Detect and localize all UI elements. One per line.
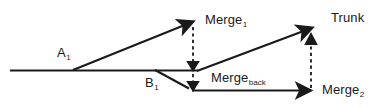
mergeback-to-trunk-edge	[197, 31, 305, 72]
node-label-trunk-base: Trunk	[331, 10, 364, 25]
node-label-merge-back-base: Merge	[211, 70, 248, 85]
node-label-merge2-base: Merge	[322, 82, 359, 97]
branch-a1-edge	[73, 25, 186, 71]
node-label-merge2-subscript: 2	[360, 90, 364, 99]
node-label-merge1-base: Merge	[205, 12, 242, 27]
node-label-merge-back-subscript: back	[249, 78, 266, 87]
node-label-b1-base: B	[145, 75, 154, 90]
branch-b1-edge	[155, 70, 189, 89]
node-label-merge2: Merge2	[322, 83, 364, 96]
diagram-graphics	[0, 0, 371, 108]
node-label-b1-subscript: 1	[154, 83, 158, 92]
node-label-merge1-subscript: 1	[243, 20, 247, 29]
node-label-a1-subscript: 1	[66, 53, 70, 62]
node-label-a1: A1	[57, 46, 70, 59]
node-label-merge-back: Mergeback	[211, 71, 265, 84]
node-label-trunk: Trunk	[331, 11, 364, 24]
diagram-canvas: A1 B1 Merge1 Trunk Mergeback Merge2	[0, 0, 371, 108]
node-label-merge1: Merge1	[205, 13, 247, 26]
merge2-up-arrowhead	[304, 32, 318, 45]
node-label-a1-base: A	[57, 45, 66, 60]
node-label-b1: B1	[145, 76, 158, 89]
